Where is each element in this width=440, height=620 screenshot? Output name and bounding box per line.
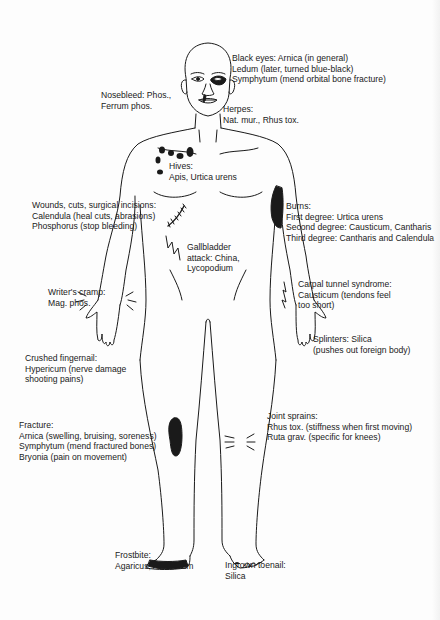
label-nosebleed: Nosebleed: Phos., Ferrum phos. [101, 90, 171, 111]
label-writers-cramp: Writer's cramp: Mag. phos. [48, 287, 105, 308]
burn-patch [271, 186, 283, 228]
incision-mark [168, 204, 186, 227]
label-black-eyes: Black eyes: Arnica (in general) Ledum (l… [232, 53, 386, 85]
label-herpes: Herpes: Nat. mur., Rhus tox. [223, 104, 299, 125]
label-splinters: Splinters: Silica (pushes out foreign bo… [313, 334, 410, 355]
label-frostbite: Frostbite: Agaricus, Arsenicum [115, 550, 193, 571]
label-joint-sprains: Joint sprains: Rhus tox. (stiffness when… [267, 411, 412, 443]
label-wounds: Wounds, cuts, surgical incisions: Calend… [32, 200, 156, 232]
carpal-zigzag-mark [282, 282, 286, 308]
label-burns: Burns: First degree: Urtica urens Second… [286, 201, 434, 243]
legs-outline [140, 319, 276, 560]
label-fracture: Fracture: Arnica (swelling, bruising, so… [19, 420, 157, 462]
label-hives: Hives: Apis, Urtica urens [169, 161, 237, 182]
diagram-canvas: Black eyes: Arnica (in general) Ledum (l… [0, 0, 440, 620]
label-carpal-tunnel: Carpal tunnel syndrome: Causticum (tendo… [298, 279, 392, 311]
label-gallbladder: Gallbladder attack: China, Lycopodium [187, 242, 240, 274]
label-crushed-fingernail: Crushed fingernail: Hypericum (nerve dam… [25, 353, 126, 385]
fracture-mark [169, 418, 182, 456]
label-ingrown-toenail: Ingrown toenail: Silica [225, 560, 286, 581]
page-edge-shadow [432, 0, 440, 620]
gallbladder-zigzag-mark [166, 236, 180, 260]
